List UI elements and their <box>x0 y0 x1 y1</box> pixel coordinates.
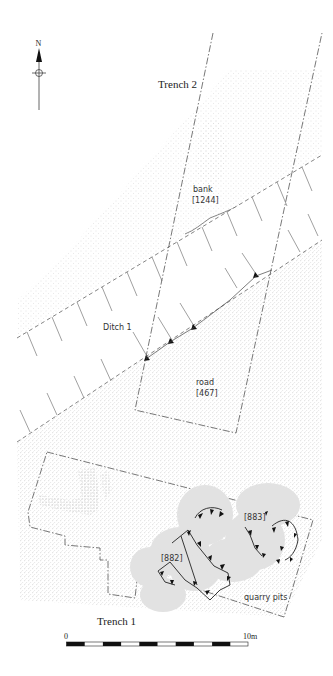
site-plan: N Trench 2 bank [1244] Ditch 1 road [467… <box>0 0 333 676</box>
north-label: N <box>36 39 42 48</box>
bank-context-label: [1244] <box>192 196 219 205</box>
quarry-pits-label: quarry pits <box>244 593 287 602</box>
ditch-label: Ditch 1 <box>103 323 132 332</box>
road-context-label: [467] <box>196 389 218 398</box>
bank-label: bank <box>193 185 213 194</box>
scale-bar <box>67 642 249 646</box>
pit-882-label: [882] <box>161 554 183 563</box>
scale-start-label: 0 <box>64 632 68 641</box>
north-arrow-icon <box>32 48 46 110</box>
pit-883-label: [883] <box>244 513 266 522</box>
trench-1-label: Trench 1 <box>97 615 136 627</box>
scale-end-label: 10m <box>243 632 258 641</box>
trench-2-label: Trench 2 <box>158 78 197 90</box>
road-label: road <box>196 378 214 387</box>
